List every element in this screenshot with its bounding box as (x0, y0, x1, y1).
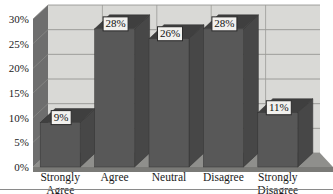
bar-side-face (243, 15, 258, 167)
bar (95, 15, 150, 167)
data-label-text: 11% (269, 101, 289, 113)
data-label-text: 9% (54, 111, 69, 123)
bar (203, 15, 258, 167)
bar-front-face (40, 123, 80, 167)
bar-side-face (135, 15, 150, 167)
y-axis-tick-label: 0% (14, 161, 29, 173)
y-axis-tick-label: 5% (14, 136, 29, 148)
bar-chart-3d: 0%5%10%15%20%25%30% 9%28%26%28%11% Stron… (0, 0, 333, 194)
bar-front-face (149, 39, 189, 167)
y-axis-tick-label: 20% (9, 62, 29, 74)
bar-front-face (203, 29, 243, 167)
bar-side-face (189, 25, 204, 167)
x-axis-category-label: Strongly (258, 171, 298, 184)
data-label-text: 28% (106, 17, 126, 29)
y-axis-tick-label: 15% (9, 87, 29, 99)
y-axis-tick-label: 25% (9, 38, 29, 50)
data-label-text: 28% (214, 17, 234, 29)
bar-front-face (258, 113, 298, 167)
y-axis-tick-labels: 0%5%10%15%20%25%30% (9, 13, 29, 173)
x-axis-category-label: Neutral (152, 171, 186, 183)
bar (149, 25, 204, 167)
x-axis-category-label: Disagree (203, 171, 244, 184)
bar-front-face (95, 29, 135, 167)
x-axis-category-label: Strongly (40, 171, 80, 184)
data-label-text: 26% (160, 27, 180, 39)
chart-container: 0%5%10%15%20%25%30% 9%28%26%28%11% Stron… (0, 0, 333, 194)
x-axis-category-labels: StronglyAgreeAgreeNeutralDisagreeStrongl… (40, 171, 298, 194)
y-axis-tick-label: 30% (9, 13, 29, 25)
y-axis-tick-label: 10% (9, 112, 29, 124)
x-axis-category-label: Agree (101, 171, 129, 184)
